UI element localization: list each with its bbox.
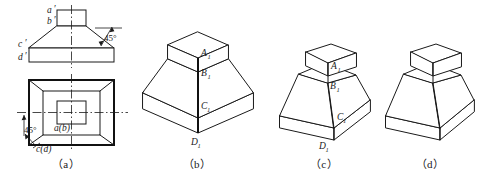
panel-a-svg: 45° a ′ b ′ c ′ d ′ [0,0,132,156]
panel-c-label-B1-sub: 1 [337,86,340,93]
panel-c-svg: A 1 B 1 C 1 D 1 [268,36,380,156]
panel-c-label-D1-sub: 1 [326,146,329,153]
panel-c-label-B1: B [330,81,336,91]
plan-view-angle-arrow-top [22,115,27,120]
label-c-prime-mark: ′ [25,38,28,48]
panel-b-svg: A 1 B 1 C 1 D 1 [136,8,260,156]
caption-b: （b） [167,155,227,171]
panel-c-label-A1-sub: 1 [338,66,341,73]
caption-a: （a） [36,155,96,171]
panel-d-svg [378,36,482,156]
label-b-prime: b [47,16,52,26]
panel-b-label-C1-sub: 1 [207,106,210,113]
label-ab-plan: a(b) [54,123,70,134]
label-cd-plan: c(d) [36,144,51,155]
front-view-angle-text: 45° [104,33,117,43]
panel-b-isometric: A 1 B 1 C 1 D 1 [136,8,260,156]
label-a-prime: a [47,5,52,15]
panel-c-isometric: A 1 B 1 C 1 D 1 [268,36,380,156]
plan-view: 45° a(b) c(d) [17,74,128,155]
panel-d-isometric [378,36,482,156]
panel-b-label-B1-sub: 1 [208,73,211,80]
label-a-prime-mark: ′ [54,4,57,14]
panel-b-label-D1-sub: 1 [198,142,201,149]
panel-a-orthographic-views: 45° a ′ b ′ c ′ d ′ [0,0,132,156]
caption-c: （c） [294,155,354,171]
caption-d: （d） [400,155,460,171]
label-c-prime: c [18,39,23,49]
plan-view-angle-text: 45° [24,125,37,135]
figure-root: 45° a ′ b ′ c ′ d ′ [0,0,482,178]
label-d-prime: d [18,52,23,62]
panel-b-label-A1-sub: 1 [208,53,211,60]
front-view: 45° a ′ b ′ c ′ d ′ [18,4,122,68]
label-d-prime-mark: ′ [25,51,28,61]
label-b-prime-mark: ′ [54,15,57,25]
panel-b-label-A1: A [200,48,207,58]
panel-c-label-C1-sub: 1 [343,117,346,124]
panel-b-label-B1: B [201,68,207,78]
panel-c-label-A1: A [330,61,337,71]
